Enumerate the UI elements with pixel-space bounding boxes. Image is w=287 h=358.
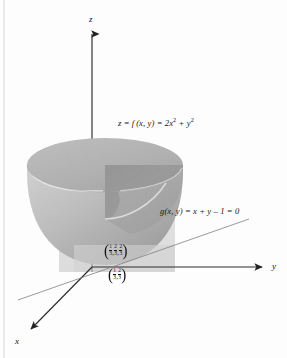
x-axis (31, 267, 92, 329)
tangency-point-2d-label: ( 1 3 , 2 3 ) (108, 267, 126, 282)
paren-open: ( (108, 266, 113, 284)
paren-close: ) (122, 242, 127, 260)
y-axis-label: y (272, 261, 276, 271)
tangency-point-3d-label: ( 1 3 , 2 3 , 2 3 ) (104, 243, 127, 258)
figure-canvas: z = f (x, y) = 2x2 + y2 g(x, y) = x + y … (0, 0, 287, 358)
surface-diagram-svg (0, 0, 287, 358)
paren-close: ) (121, 266, 126, 284)
paren-open: ( (104, 242, 109, 260)
surface-equation-label: z = f (x, y) = 2x2 + y2 (118, 118, 194, 128)
z-axis-label: z (89, 14, 93, 24)
constraint-equation-label: g(x, y) = x + y – 1 = 0 (160, 206, 239, 216)
x-axis-label: x (15, 336, 19, 346)
